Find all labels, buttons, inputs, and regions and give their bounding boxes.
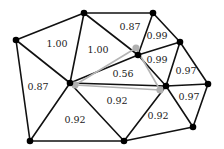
face-label: 1.00 — [87, 44, 108, 55]
edge-v11-v10 — [124, 127, 193, 141]
mesh-diagram: 1.00 1.00 0.87 0.99 0.99 0.56 0.97 0.87 … — [0, 0, 224, 149]
face-label: 0.92 — [106, 95, 127, 106]
gray-vertex-g7 — [156, 86, 163, 93]
vertex-v8 — [205, 81, 212, 88]
edge-v1-v2 — [16, 13, 84, 40]
edge-v6-v10 — [70, 83, 124, 141]
edge-v2-v6 — [70, 13, 84, 83]
face-label: 0.87 — [27, 81, 48, 92]
vertex-v1 — [13, 37, 20, 44]
vertex-v9 — [27, 138, 34, 145]
vertex-v6 — [67, 80, 74, 87]
gray-vertex-g5 — [132, 44, 139, 51]
vertex-v11 — [190, 124, 197, 131]
vertex-v5 — [135, 52, 142, 59]
edge-v7-v8 — [166, 84, 208, 86]
edge-v4-v8 — [180, 42, 208, 84]
face-label: 0.92 — [147, 110, 168, 121]
face-label: 0.99 — [146, 30, 167, 41]
vertex-v4 — [177, 39, 184, 46]
face-label: 0.99 — [146, 54, 167, 65]
vertex-v2 — [81, 10, 88, 17]
face-label: 0.97 — [175, 65, 196, 76]
vertex-v10 — [121, 138, 128, 145]
face-label: 0.97 — [178, 91, 199, 102]
edge-v6-v9 — [30, 83, 70, 141]
vertex-v7 — [163, 83, 170, 90]
face-label: 0.87 — [119, 21, 140, 32]
face-label: 1.00 — [46, 38, 67, 49]
face-label: 0.56 — [112, 68, 133, 79]
face-label: 0.92 — [64, 114, 85, 125]
vertex-v3 — [150, 10, 157, 17]
